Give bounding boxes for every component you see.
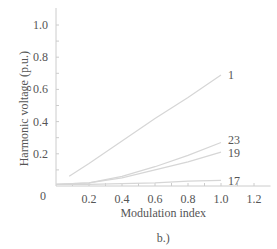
series-line-17: [56, 180, 221, 184]
x-tick-label: 1.2: [247, 192, 262, 206]
series-label-1: 1: [228, 68, 234, 82]
x-tick-label: 0.6: [148, 192, 163, 206]
x-tick-label: 1.0: [214, 192, 229, 206]
figure-caption: b.): [157, 231, 170, 245]
x-tick-label: 0.4: [115, 192, 130, 206]
x-axis-label: Modulation index: [120, 206, 206, 220]
series-label-17: 17: [228, 174, 240, 188]
y-tick-label: 0.2: [33, 147, 48, 161]
y-tick-label: 1.0: [33, 18, 48, 32]
axis-labels: 0.20.40.60.81.00.20.40.60.81.01.20Modula…: [17, 18, 262, 245]
series-label-23: 23: [228, 133, 240, 147]
y-axis-label: Harmonic voltage (p.u.): [17, 51, 31, 166]
y-tick-label: 0.8: [33, 50, 48, 64]
origin-label: 0: [40, 189, 46, 203]
series-line-1: [69, 75, 221, 176]
harmonic-voltage-chart: 0.20.40.60.81.00.20.40.60.81.01.20Modula…: [0, 0, 277, 249]
y-tick-label: 0.4: [33, 115, 48, 129]
x-tick-label: 0.8: [181, 192, 196, 206]
series-lines: [56, 75, 221, 184]
y-tick-label: 0.6: [33, 82, 48, 96]
series-line-23: [56, 143, 221, 185]
series-label-19: 19: [228, 146, 240, 160]
x-tick-label: 0.2: [82, 192, 97, 206]
